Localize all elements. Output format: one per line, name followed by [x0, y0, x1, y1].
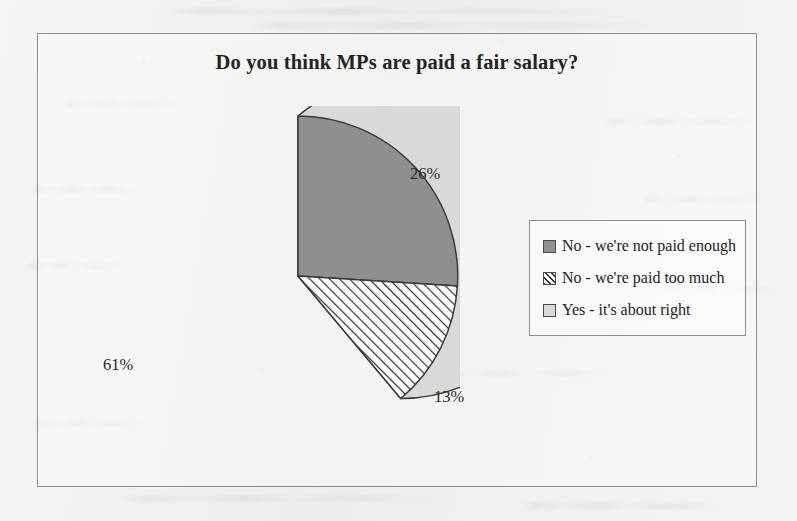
- pie-label-13-percent: 13%: [434, 387, 464, 407]
- chart-frame: Do you think MPs are paid a fair salary?…: [37, 33, 757, 487]
- legend-label: Yes - it's about right: [562, 302, 690, 318]
- pie-svg: [136, 106, 460, 446]
- legend-item-yes-its-about-right[interactable]: Yes - it's about right: [543, 298, 731, 322]
- legend-label: No - we're not paid enough: [562, 238, 736, 254]
- pie-chart: [136, 106, 460, 446]
- chart-legend: No - we're not paid enough No - we're pa…: [529, 220, 746, 336]
- legend-item-no-were-not-paid-enough[interactable]: No - we're not paid enough: [543, 234, 731, 258]
- legend-swatch-solid-dark-icon: [543, 240, 556, 253]
- pie-label-61-percent: 61%: [103, 355, 133, 375]
- pie-label-26-percent: 26%: [410, 164, 440, 184]
- legend-label: No - we're paid too much: [562, 270, 724, 286]
- legend-swatch-solid-light-icon: [543, 304, 556, 317]
- legend-item-no-were-paid-too-much[interactable]: No - we're paid too much: [543, 266, 731, 290]
- chart-title: Do you think MPs are paid a fair salary?: [38, 51, 756, 74]
- legend-swatch-diagonal-hatch-icon: [543, 272, 556, 285]
